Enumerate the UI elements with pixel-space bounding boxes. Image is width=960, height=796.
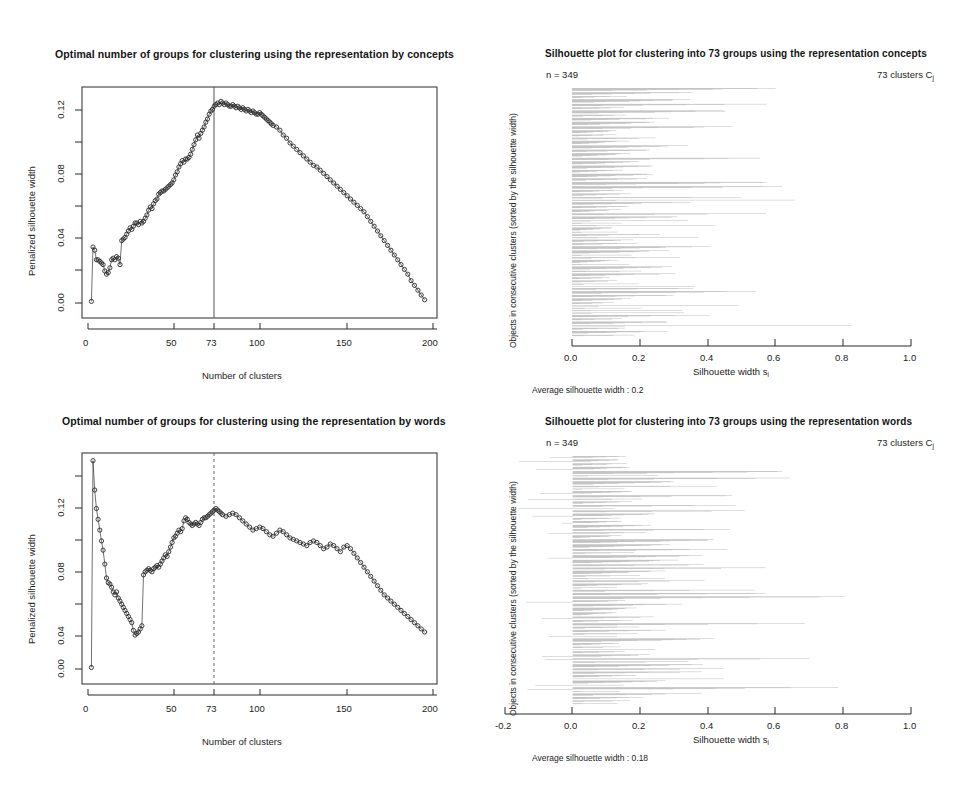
bottom-right-xlabel-text: Silhouette width s bbox=[693, 734, 767, 745]
top-left-xtick-1: 50 bbox=[166, 337, 177, 348]
top-left-xtick-0: 0 bbox=[83, 337, 88, 348]
bottom-left-xtick-2: 73 bbox=[206, 703, 217, 714]
top-left-xtick-5: 200 bbox=[422, 337, 438, 348]
bottom-left-xtick-5: 200 bbox=[422, 703, 438, 714]
bottom-right-footer: Average silhouette width : 0.18 bbox=[532, 753, 648, 763]
top-right-xtick-2: 0.4 bbox=[700, 352, 713, 363]
bottom-right-xtick-5: 0.8 bbox=[835, 720, 848, 731]
top-left-plot bbox=[0, 0, 490, 398]
bottom-left-ytick-2: 0.04 bbox=[55, 624, 66, 648]
bottom-left-plot bbox=[0, 398, 490, 796]
top-right-xtick-3: 0.6 bbox=[767, 352, 780, 363]
top-right-xtick-4: 0.8 bbox=[835, 352, 848, 363]
bottom-left-ytick-3: 0.00 bbox=[55, 657, 66, 681]
top-left-xtick-2: 73 bbox=[206, 337, 217, 348]
panel-top-right: Silhouette plot for clustering into 73 g… bbox=[490, 0, 960, 398]
silhouette-bars-words bbox=[519, 456, 846, 704]
bottom-right-xtick-6: 1.0 bbox=[903, 720, 916, 731]
bottom-right-xtick-0: -0.2 bbox=[495, 720, 511, 731]
top-left-ytick-3: 0.00 bbox=[55, 291, 66, 315]
bottom-left-xtick-3: 100 bbox=[249, 703, 265, 714]
top-left-xtick-4: 150 bbox=[336, 337, 352, 348]
top-left-ytick-1: 0.08 bbox=[55, 162, 66, 186]
bottom-left-ytick-1: 0.08 bbox=[55, 560, 66, 584]
top-right-xtick-1: 0.2 bbox=[632, 352, 645, 363]
panel-top-left: Optimal number of groups for clustering … bbox=[0, 0, 490, 398]
bottom-left-xtick-4: 150 bbox=[336, 703, 352, 714]
panel-bottom-right: Silhouette plot for clustering into 73 g… bbox=[490, 398, 960, 796]
bottom-right-xtick-1: 0.0 bbox=[564, 720, 577, 731]
bottom-right-xtick-3: 0.4 bbox=[700, 720, 713, 731]
top-right-silhouette-plot bbox=[490, 0, 960, 398]
top-left-xtick-3: 100 bbox=[249, 337, 265, 348]
top-right-xtick-5: 1.0 bbox=[903, 352, 916, 363]
bottom-right-xtick-2: 0.2 bbox=[632, 720, 645, 731]
bottom-right-xtick-4: 0.6 bbox=[767, 720, 780, 731]
bottom-right-xlabel-subscript: i bbox=[767, 739, 768, 746]
bottom-left-ytick-0: 0.12 bbox=[55, 496, 66, 520]
bottom-left-xtick-0: 0 bbox=[83, 703, 88, 714]
bottom-right-xlabel: Silhouette width si bbox=[693, 734, 769, 746]
top-right-xtick-0: 0.0 bbox=[564, 352, 577, 363]
top-right-xlabel-subscript: i bbox=[767, 371, 768, 378]
top-right-footer: Average silhouette width : 0.2 bbox=[532, 385, 643, 395]
top-right-xlabel-text: Silhouette width s bbox=[693, 366, 767, 377]
bottom-left-xtick-1: 50 bbox=[166, 703, 177, 714]
top-left-ytick-0: 0.12 bbox=[55, 98, 66, 122]
top-right-xlabel: Silhouette width si bbox=[693, 366, 769, 378]
silhouette-bars-concepts bbox=[572, 88, 852, 336]
top-left-ytick-2: 0.04 bbox=[55, 226, 66, 250]
panel-bottom-left: Optimal number of groups for clustering … bbox=[0, 398, 490, 796]
